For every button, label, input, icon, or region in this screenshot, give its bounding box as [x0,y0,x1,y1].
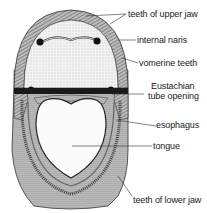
internal-naris-left [37,39,44,46]
jaw-hinge [14,88,128,94]
label-teeth-of-upper-jaw: teeth of upper jaw [128,10,198,19]
frog-mouth-diagram [0,0,207,213]
label-eustachian-line1: Eustachian [151,82,195,91]
label-internal-naris: internal naris [137,36,187,45]
label-tongue: tongue [153,142,180,151]
label-eustachian-line2: tube opening [148,92,199,101]
internal-naris-right [94,38,101,45]
label-vomerine-teeth: vomerine teeth [139,59,197,68]
label-esophagus: esophagus [156,121,199,130]
label-teeth-of-lower-jaw: teeth of lower jaw [133,196,201,205]
